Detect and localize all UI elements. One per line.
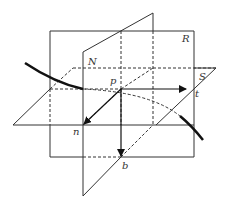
- label-n-vector: n: [73, 126, 79, 137]
- normal-vector-n: [84, 89, 121, 124]
- plane-r: [50, 31, 194, 157]
- frenet-frame-diagram: R S N p t n b: [0, 0, 226, 209]
- label-p: p: [110, 75, 117, 86]
- label-n: N: [87, 56, 98, 67]
- label-b: b: [122, 160, 128, 171]
- label-s: S: [199, 71, 206, 82]
- label-t: t: [195, 88, 200, 99]
- plane-n: [83, 13, 153, 196]
- label-r: R: [181, 33, 190, 44]
